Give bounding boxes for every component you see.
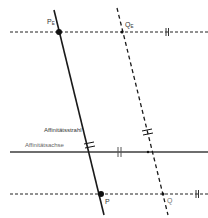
label-pe-sub: E <box>52 21 55 26</box>
point-pe <box>56 29 62 35</box>
label-q: Q <box>167 197 172 204</box>
affinity-ray-dashed <box>117 8 168 215</box>
label-ray: Affinitätsstrahl <box>44 127 82 133</box>
label-pe: PE <box>47 18 55 27</box>
point-qe <box>121 31 124 34</box>
affinity-ray-solid <box>54 10 104 215</box>
label-qe: QE <box>125 21 133 30</box>
label-p: P <box>105 198 110 205</box>
diagram-canvas <box>0 0 208 218</box>
point-q <box>162 193 165 196</box>
point-axis-intersection <box>147 151 149 153</box>
label-axis: Affinitätsachse <box>25 142 64 148</box>
point-p <box>98 191 104 197</box>
label-qe-sub: E <box>130 24 133 29</box>
